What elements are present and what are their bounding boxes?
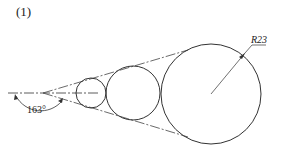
radius-leader-tail [245, 45, 252, 53]
technical-drawing: 163° R23 [0, 0, 285, 151]
medium-circle [106, 66, 160, 120]
lower-tangent-line [43, 93, 188, 137]
radius-label: R23 [250, 34, 267, 45]
angle-arrow-left-icon [14, 94, 18, 100]
radius-leader-line [211, 53, 245, 94]
angle-arrow-right-icon [58, 98, 63, 103]
angle-label: 163° [27, 104, 46, 115]
